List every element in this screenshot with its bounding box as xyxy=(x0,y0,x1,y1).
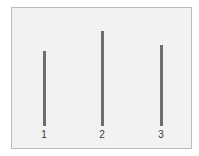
line-3-label: 3 xyxy=(155,130,167,140)
line-2 xyxy=(101,31,104,126)
line-3 xyxy=(160,45,163,126)
line-1 xyxy=(43,51,46,126)
line-1-label: 1 xyxy=(38,130,50,140)
line-2-label: 2 xyxy=(96,130,108,140)
